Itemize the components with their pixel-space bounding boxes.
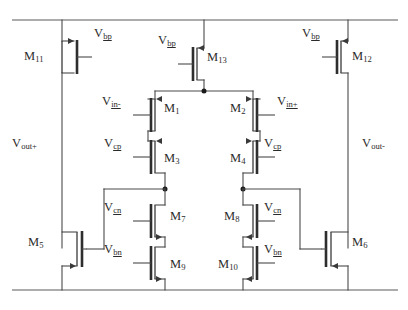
label-M12: M12 (352, 50, 372, 63)
schematic-canvas (0, 0, 408, 310)
label-vbp-mid: Vbp (158, 34, 176, 47)
label-vbn-right: Vbn (264, 243, 282, 256)
M13-bulk-arrow (198, 45, 204, 51)
label-M10: M10 (218, 258, 238, 271)
transistor-M7 (133, 189, 165, 247)
M8-bulk-arrow (246, 234, 252, 240)
label-vcn-left: Vcn (104, 201, 121, 214)
M9-bulk-arrow (156, 276, 162, 282)
label-M5: M5 (28, 236, 44, 249)
M1-bulk-arrow (156, 96, 162, 102)
transistor-M9 (133, 246, 165, 290)
M3-bulk-arrow (156, 138, 162, 144)
transistor-M6 (321, 231, 348, 290)
M6-bulk-arrow (332, 263, 338, 269)
label-vin-minus: Vin- (102, 95, 121, 108)
label-M4: M4 (230, 152, 246, 165)
transistor-M3 (133, 138, 165, 189)
label-vbn-left: Vbn (104, 243, 122, 256)
label-vout-minus: Vout- (362, 137, 385, 150)
M10-bulk-arrow (246, 276, 252, 282)
transistor-M11 (62, 20, 92, 248)
M7-bulk-arrow (156, 234, 162, 240)
label-M8: M8 (224, 210, 240, 223)
label-M6: M6 (352, 236, 368, 249)
label-M11: M11 (24, 50, 44, 63)
label-M3: M3 (164, 152, 180, 165)
label-vbp-right: Vbp (302, 27, 320, 40)
tail-node-dot (202, 89, 207, 94)
label-vcp-left: Vcp (104, 137, 121, 150)
M11-bulk-arrow (68, 38, 74, 44)
label-vcn-right: Vcn (264, 201, 281, 214)
M2-bulk-arrow (246, 96, 252, 102)
label-M2: M2 (230, 102, 246, 115)
label-M9: M9 (170, 258, 186, 271)
transistor-M1 (133, 96, 162, 141)
label-vbp-left: Vbp (94, 27, 112, 40)
label-vout-plus: Vout+ (12, 137, 37, 150)
label-vin-plus: Vin+ (277, 95, 298, 108)
label-M7: M7 (170, 210, 186, 223)
label-M1: M1 (164, 102, 180, 115)
transistor-M2 (246, 96, 275, 141)
transistor-M12 (322, 20, 348, 248)
M4-bulk-arrow (246, 138, 252, 144)
label-M13: M13 (207, 51, 227, 64)
transistor-M13 (178, 20, 204, 91)
transistor-M5 (62, 231, 87, 290)
M5-bulk-arrow (70, 263, 76, 269)
circuit-schematic: M11 M13 M12 M1 M2 M3 M4 M7 M8 M9 M10 M5 … (0, 0, 408, 310)
label-vcp-right: Vcp (264, 137, 281, 150)
M12-bulk-arrow (342, 38, 348, 44)
transistor-M8 (243, 189, 275, 247)
